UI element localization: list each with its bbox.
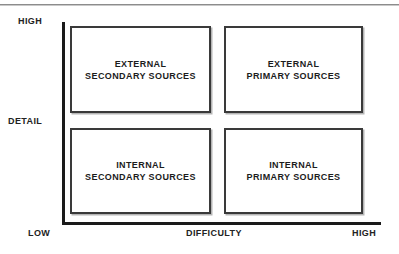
matrix-diagram: HIGH DETAIL LOW DIFFICULTY HIGH EXTERNAL…: [0, 0, 399, 254]
y-axis-title: DETAIL: [8, 116, 42, 126]
x-axis-title: DIFFICULTY: [186, 228, 242, 238]
top-divider-rule: [0, 4, 399, 6]
x-axis-low-label: LOW: [28, 228, 50, 238]
x-axis-line: [62, 222, 381, 225]
quadrant-external-primary-sources: EXTERNAL PRIMARY SOURCES: [224, 26, 363, 113]
x-axis-high-label: HIGH: [352, 228, 376, 238]
quadrant-label: INTERNAL SECONDARY SOURCES: [85, 159, 196, 183]
quadrant-internal-primary-sources: INTERNAL PRIMARY SOURCES: [224, 128, 363, 214]
quadrant-label: EXTERNAL SECONDARY SOURCES: [85, 58, 196, 82]
quadrant-external-secondary-sources: EXTERNAL SECONDARY SOURCES: [70, 26, 211, 113]
y-axis-line: [62, 22, 65, 225]
y-axis-high-label: HIGH: [18, 16, 42, 26]
quadrant-label: INTERNAL PRIMARY SOURCES: [246, 159, 340, 183]
quadrant-label: EXTERNAL PRIMARY SOURCES: [246, 58, 340, 82]
quadrant-internal-secondary-sources: INTERNAL SECONDARY SOURCES: [70, 128, 211, 214]
